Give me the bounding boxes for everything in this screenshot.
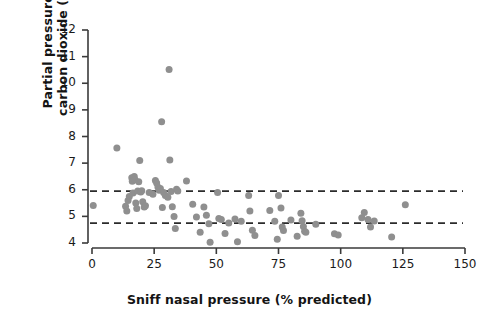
data-point (245, 192, 252, 199)
data-point (149, 191, 156, 198)
data-point (133, 205, 140, 212)
y-tick-label: 12 (50, 22, 76, 36)
data-point (172, 225, 179, 232)
data-point (238, 218, 245, 225)
data-point (203, 212, 210, 219)
data-point (171, 213, 178, 220)
data-point (169, 203, 176, 210)
x-tick-label: 75 (259, 257, 299, 271)
caption-strip (14, 312, 484, 325)
data-point (193, 213, 200, 220)
data-point (90, 202, 97, 209)
x-tick-label: 0 (72, 257, 112, 271)
data-point (225, 220, 232, 227)
data-point (158, 118, 165, 125)
y-tick-label: 8 (50, 129, 76, 143)
data-point (402, 201, 409, 208)
data-point (214, 189, 221, 196)
data-point (280, 227, 287, 234)
data-point (205, 220, 212, 227)
data-point (189, 201, 196, 208)
data-point (361, 209, 368, 216)
x-tick-label: 25 (134, 257, 174, 271)
data-point (135, 178, 142, 185)
data-point (294, 233, 301, 240)
data-point (123, 208, 130, 215)
y-tick-label: 9 (50, 102, 76, 116)
figure-panel: Partial pressure of carbon dioxide (kPa)… (0, 0, 499, 325)
data-point (142, 202, 149, 209)
x-tick-label: 50 (196, 257, 236, 271)
data-point (136, 157, 143, 164)
y-tick-label: 5 (50, 208, 76, 222)
data-point (274, 236, 281, 243)
data-point (271, 218, 278, 225)
data-point (299, 217, 306, 224)
y-tick-label: 7 (50, 155, 76, 169)
data-point (287, 217, 294, 224)
data-point (159, 204, 166, 211)
data-point (200, 204, 207, 211)
data-point (246, 208, 253, 215)
data-point (113, 144, 120, 151)
y-tick-label: 4 (50, 235, 76, 249)
data-point (277, 205, 284, 212)
data-point (367, 224, 374, 231)
data-point (218, 216, 225, 223)
data-point (302, 229, 309, 236)
data-point (183, 177, 190, 184)
y-tick-label: 6 (50, 182, 76, 196)
data-point (197, 229, 204, 236)
data-point (231, 216, 238, 223)
data-point (207, 239, 214, 246)
y-tick-label: 11 (50, 49, 76, 63)
data-point (166, 66, 173, 73)
x-tick-label: 125 (383, 257, 423, 271)
x-tick-label: 150 (445, 257, 485, 271)
data-point (312, 221, 319, 228)
data-point (371, 217, 378, 224)
data-point (365, 216, 372, 223)
data-point (234, 238, 241, 245)
data-point (275, 192, 282, 199)
data-point (166, 156, 173, 163)
data-point (251, 232, 258, 239)
y-tick-label: 10 (50, 75, 76, 89)
data-point (335, 232, 342, 239)
data-points-group (90, 66, 409, 246)
x-tick-label: 100 (321, 257, 361, 271)
data-point (388, 233, 395, 240)
data-point (138, 187, 145, 194)
data-point (174, 188, 181, 195)
data-point (266, 207, 273, 214)
data-point (297, 210, 304, 217)
data-point (222, 230, 229, 237)
